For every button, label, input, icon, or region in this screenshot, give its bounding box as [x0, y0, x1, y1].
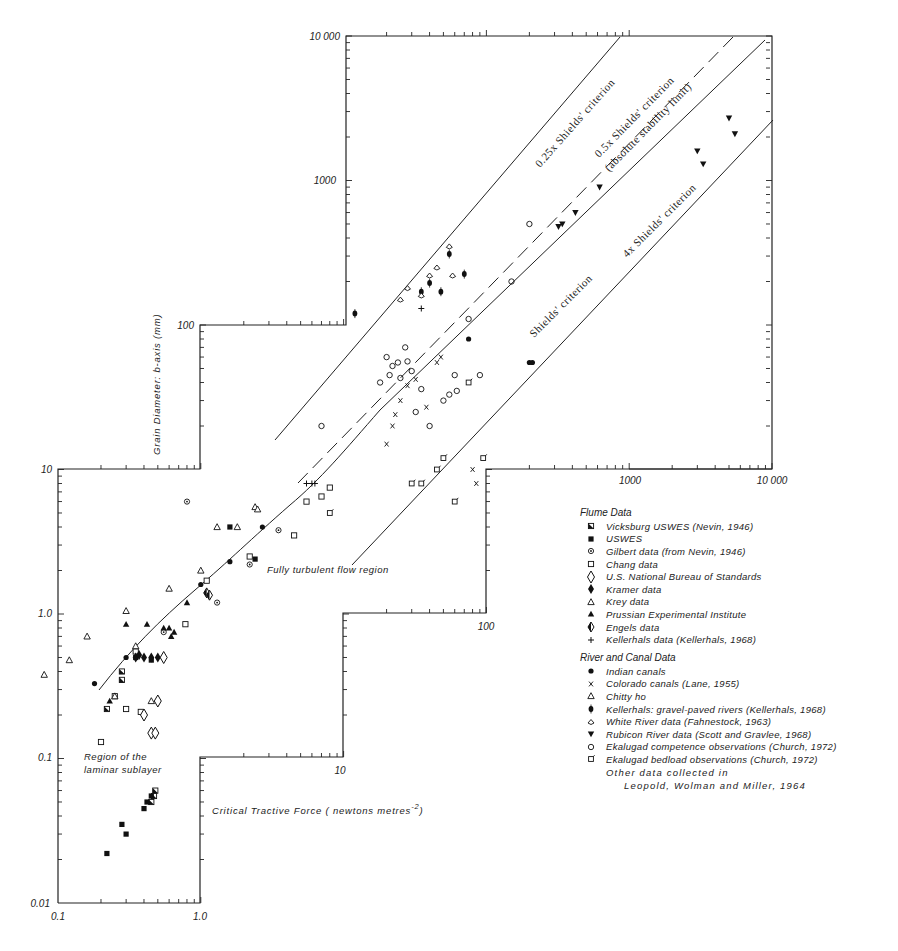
data-point: [198, 567, 204, 573]
data-point: [447, 250, 452, 259]
data-point: [377, 380, 382, 385]
open-triangle-icon: [580, 597, 602, 607]
data-point: [474, 481, 478, 486]
legend-item: Kellerhals data (Kellerhals, 1968): [580, 633, 890, 646]
data-point: [726, 116, 732, 122]
data-point: [530, 360, 535, 365]
data-point: [104, 706, 109, 711]
data-point: [92, 681, 97, 686]
open-square-icon: [580, 559, 602, 569]
data-point: [405, 359, 410, 364]
legend-item: Kramer data: [580, 583, 890, 596]
data-point: [572, 210, 578, 216]
legend-note-2: Leopold, Wolman and Miller, 1964: [624, 779, 890, 792]
data-point: [144, 621, 150, 627]
data-point: [391, 424, 395, 429]
data-point: [466, 316, 471, 321]
filled-inverted-triangle-icon: [580, 729, 602, 739]
data-point: [413, 409, 418, 414]
legend-item: Indian canals: [580, 665, 890, 678]
data-point: [398, 375, 403, 380]
legend-item: Ekalugad competence observations (Church…: [580, 741, 890, 754]
data-point: [161, 625, 167, 631]
x-tick-1: 1.0: [193, 911, 207, 922]
open-circle-icon: [580, 742, 602, 752]
legend-item: White River data (Fahnestock, 1963): [580, 715, 890, 728]
data-point: [397, 297, 403, 302]
data-point: [123, 621, 129, 627]
data-point: [227, 524, 232, 529]
legend-item: USWES: [580, 533, 890, 546]
data-point: [141, 806, 146, 811]
data-point: [435, 360, 439, 365]
data-point: [98, 739, 103, 744]
data-point: [327, 509, 333, 515]
open-diamond-icon: [580, 570, 602, 584]
data-point: [419, 386, 424, 391]
four-shields-label: 4x Shields' criterion: [620, 181, 698, 259]
data-point: [452, 498, 458, 504]
data-point: [153, 788, 158, 793]
data-point: [319, 494, 324, 499]
data-point: [184, 599, 190, 605]
legend-item: Ekalugad bedload observations (Church, 1…: [580, 753, 890, 766]
data-point: [119, 677, 124, 682]
data-point: [466, 379, 472, 385]
data-point: [171, 629, 177, 635]
data-point: [452, 372, 457, 377]
data-point: [393, 412, 397, 417]
legend-river-title: River and Canal Data: [580, 652, 890, 663]
data-point: [124, 832, 129, 837]
data-point: [439, 355, 443, 360]
line-labels: 0.25x Shields' criterion 0.5x Shields' c…: [527, 74, 698, 339]
legend-flume-title: Flume Data: [580, 507, 890, 518]
barred-circle-icon: [580, 703, 602, 715]
turbulent-region-label: Fully turbulent flow region: [267, 564, 389, 575]
data-point: [184, 499, 189, 504]
data-point: [119, 669, 124, 674]
data-point: [462, 270, 467, 279]
data-point: [124, 655, 129, 660]
data-point: [292, 533, 297, 538]
data-point: [387, 372, 392, 377]
data-point: [327, 485, 332, 490]
data-point: [409, 480, 415, 486]
y-tick-1: 1.0: [38, 608, 52, 619]
data-point: [427, 273, 433, 278]
data-point: [481, 454, 487, 460]
data-point: [427, 279, 432, 288]
data-point: [66, 657, 72, 663]
data-point: [154, 695, 161, 707]
four-shields-line: [352, 120, 773, 565]
data-point: [260, 524, 265, 529]
quarter-shields-line: [275, 37, 620, 440]
data-point: [119, 822, 124, 827]
data-point: [166, 585, 172, 591]
plus-icon: [580, 635, 602, 645]
data-point: [466, 336, 471, 341]
data-point: [441, 454, 447, 460]
square-with-tail-icon: [580, 754, 602, 764]
x-tick-100: 100: [478, 621, 495, 632]
x-icon: [580, 679, 602, 689]
data-point: [204, 578, 209, 583]
y-tick-10: 10: [41, 464, 53, 475]
laminar-region-label-1: Region of the: [84, 751, 147, 762]
data-point: [227, 559, 232, 564]
data-point: [427, 423, 432, 428]
legend-item: Kellerhals: gravel-paved rivers (Kellerh…: [580, 703, 890, 716]
data-point: [384, 354, 389, 359]
data-point: [149, 793, 154, 798]
data-point: [41, 671, 47, 677]
small-triangle-icon: [580, 691, 602, 701]
y-tick-0.1: 0.1: [38, 752, 52, 763]
filled-circle-icon: [580, 666, 602, 676]
data-point: [409, 368, 414, 373]
filled-diamond-icon: [580, 583, 602, 595]
data-point: [694, 148, 700, 154]
open-circle-dot-icon: [580, 717, 602, 727]
data-point: [312, 481, 318, 487]
filled-square-icon: [580, 534, 602, 544]
data-point: [555, 224, 561, 230]
half-diamond-icon: [580, 621, 602, 633]
